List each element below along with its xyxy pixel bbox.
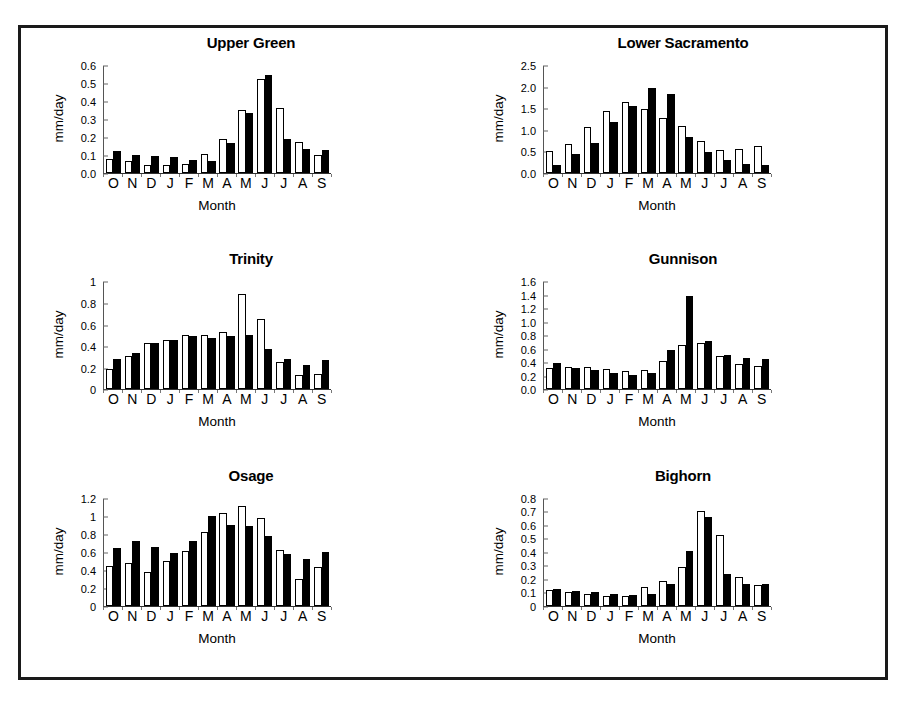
bar-group-bighorn-o-0 xyxy=(544,499,563,606)
y-tick-label-osage-0: 0 xyxy=(90,601,103,612)
bar-group-upper-green-n-1 xyxy=(123,66,142,173)
bar-open-upper-green-6 xyxy=(219,139,227,173)
bar-open-upper-green-3 xyxy=(163,165,171,173)
bar-filled-trinity-11 xyxy=(322,360,330,389)
x-tick-label-bighorn-2: D xyxy=(582,608,601,625)
y-tick-label-osage-1: 0.2 xyxy=(81,583,103,594)
bar-open-upper-green-9 xyxy=(276,108,284,173)
bar-filled-lower-sacramento-8 xyxy=(705,152,713,173)
bar-open-trinity-0 xyxy=(106,369,114,389)
bar-group-lower-sacramento-o-0 xyxy=(544,66,563,173)
bar-open-trinity-8 xyxy=(257,319,265,389)
bar-filled-osage-11 xyxy=(322,552,330,606)
x-tick-label-trinity-9: J xyxy=(274,391,293,408)
bar-filled-bighorn-9 xyxy=(724,574,732,606)
y-tick-label-bighorn-5: 0.5 xyxy=(521,534,543,545)
x-tick-label-osage-9: J xyxy=(274,608,293,625)
x-tick-label-trinity-1: N xyxy=(123,391,142,408)
bar-group-osage-d-2 xyxy=(142,499,161,606)
bar-group-trinity-s-11 xyxy=(312,282,331,389)
x-tick-label-upper-green-9: J xyxy=(274,175,293,192)
bar-filled-bighorn-10 xyxy=(743,584,751,606)
bar-group-osage-n-1 xyxy=(123,499,142,606)
bar-open-upper-green-5 xyxy=(201,154,209,173)
bar-groups-trinity xyxy=(104,282,331,389)
bar-filled-gunnison-5 xyxy=(648,373,656,390)
bar-group-upper-green-m-5 xyxy=(199,66,218,173)
bar-groups-upper-green xyxy=(104,66,331,173)
x-tick-mark-bighorn-12 xyxy=(771,607,772,610)
y-axis-label-lower-sacramento: mm/day xyxy=(491,90,506,148)
y-tick-label-gunnison-7: 1.4 xyxy=(521,290,543,301)
bar-filled-gunnison-2 xyxy=(591,370,599,389)
y-tick-label-gunnison-4: 0.8 xyxy=(521,331,543,342)
plot-area-upper-green: 0.00.10.20.30.40.50.6ONDJFMAMJJAS xyxy=(103,66,331,174)
bar-group-osage-j-9 xyxy=(274,499,293,606)
bar-open-upper-green-2 xyxy=(144,165,152,173)
bar-groups-bighorn xyxy=(544,499,771,606)
bar-filled-upper-green-9 xyxy=(284,139,292,173)
bar-group-osage-a-10 xyxy=(293,499,312,606)
y-tick-label-osage-5: 1 xyxy=(90,511,103,522)
bar-filled-trinity-1 xyxy=(132,353,140,390)
x-tick-label-gunnison-10: A xyxy=(733,391,752,408)
bar-filled-bighorn-6 xyxy=(667,584,675,606)
x-tick-label-upper-green-6: A xyxy=(218,175,237,192)
x-tick-label-osage-8: J xyxy=(255,608,274,625)
x-tick-labels-trinity: ONDJFMAMJJAS xyxy=(104,391,331,408)
bar-open-lower-sacramento-5 xyxy=(641,109,649,173)
bar-filled-upper-green-7 xyxy=(246,113,254,173)
x-tick-label-bighorn-6: A xyxy=(658,608,677,625)
bar-groups-lower-sacramento xyxy=(544,66,771,173)
x-tick-label-gunnison-2: D xyxy=(582,391,601,408)
bar-open-osage-2 xyxy=(144,572,152,606)
panel-title-bighorn: Bighorn xyxy=(467,467,899,484)
y-tick-label-gunnison-5: 1.0 xyxy=(521,317,543,328)
bar-open-gunnison-11 xyxy=(754,366,762,389)
bar-group-gunnison-j-3 xyxy=(601,282,620,389)
bar-group-bighorn-m-5 xyxy=(639,499,658,606)
x-tick-label-gunnison-8: J xyxy=(695,391,714,408)
bar-filled-trinity-0 xyxy=(113,359,121,390)
bar-filled-trinity-10 xyxy=(303,365,311,390)
x-tick-label-bighorn-3: J xyxy=(601,608,620,625)
x-tick-label-bighorn-5: M xyxy=(639,608,658,625)
bar-open-gunnison-8 xyxy=(697,343,705,389)
x-tick-label-trinity-6: A xyxy=(218,391,237,408)
bar-group-bighorn-d-2 xyxy=(582,499,601,606)
x-tick-label-upper-green-10: A xyxy=(293,175,312,192)
bar-filled-gunnison-7 xyxy=(686,296,694,389)
bar-filled-upper-green-3 xyxy=(170,157,178,173)
bar-group-trinity-o-0 xyxy=(104,282,123,389)
y-tick-label-lower-sacramento-1: 0.5 xyxy=(521,147,543,158)
x-tick-mark-upper-green-12 xyxy=(331,174,332,177)
x-tick-label-trinity-8: J xyxy=(255,391,274,408)
bar-open-osage-1 xyxy=(125,563,133,605)
bar-filled-lower-sacramento-10 xyxy=(743,164,751,174)
x-tick-label-upper-green-11: S xyxy=(312,175,331,192)
bar-filled-upper-green-6 xyxy=(227,143,235,173)
bar-group-upper-green-j-9 xyxy=(274,66,293,173)
bar-group-bighorn-j-3 xyxy=(601,499,620,606)
x-tick-label-lower-sacramento-10: A xyxy=(733,175,752,192)
y-tick-label-gunnison-2: 0.4 xyxy=(521,358,543,369)
bar-group-upper-green-a-10 xyxy=(293,66,312,173)
bar-group-gunnison-f-4 xyxy=(620,282,639,389)
y-tick-label-upper-green-0: 0.0 xyxy=(81,169,103,180)
y-tick-label-lower-sacramento-2: 1.0 xyxy=(521,125,543,136)
bar-group-gunnison-j-9 xyxy=(714,282,733,389)
bar-group-gunnison-n-1 xyxy=(563,282,582,389)
x-axis-label-trinity: Month xyxy=(103,414,331,429)
bar-filled-lower-sacramento-6 xyxy=(667,94,675,173)
x-tick-label-upper-green-1: N xyxy=(123,175,142,192)
bar-group-trinity-m-5 xyxy=(199,282,218,389)
y-tick-label-trinity-1: 0.2 xyxy=(81,363,103,374)
x-tick-label-bighorn-4: F xyxy=(620,608,639,625)
bar-open-bighorn-3 xyxy=(603,596,611,606)
y-tick-label-upper-green-6: 0.6 xyxy=(81,61,103,72)
bar-open-osage-11 xyxy=(314,567,322,606)
y-tick-label-gunnison-3: 0.6 xyxy=(521,344,543,355)
y-tick-label-upper-green-5: 0.5 xyxy=(81,79,103,90)
bar-open-gunnison-4 xyxy=(622,371,630,389)
x-tick-label-upper-green-7: M xyxy=(236,175,255,192)
